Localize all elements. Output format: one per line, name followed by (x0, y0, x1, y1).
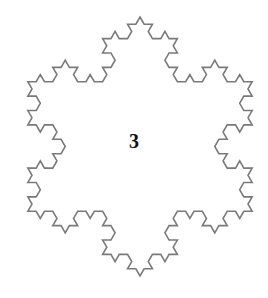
iteration-label: 3 (0, 129, 268, 153)
